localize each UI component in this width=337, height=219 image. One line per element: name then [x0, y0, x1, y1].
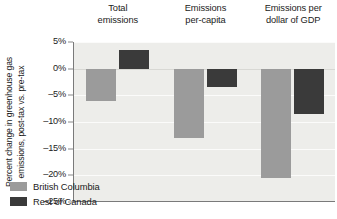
y-tick-label-3: –10%: [22, 117, 66, 126]
category-header-total-emissions: Total emissions: [74, 1, 162, 37]
category-header-line2: emissions: [74, 15, 162, 27]
plot-area: [73, 42, 335, 202]
category-header-emissions-per-dollar-gdp: Emissions per dollar of GDP: [249, 1, 337, 37]
legend-label-rest-of-canada: Rest of Canada: [33, 197, 97, 207]
legend-item-british-columbia: British Columbia: [10, 179, 100, 194]
bar-0-group-2: [261, 69, 291, 178]
y-axis-title-line1: Percent change in greenhouse gas: [4, 57, 14, 187]
category-header-emissions-per-capita: Emissions per-capita: [162, 1, 250, 37]
bar-0-group-0: [86, 69, 116, 101]
category-header-line1: Emissions per: [249, 3, 337, 15]
bar-1-group-2: [294, 69, 324, 114]
legend-swatch-british-columbia: [10, 182, 27, 191]
y-tick-label-4: –15%: [22, 144, 66, 153]
gridline: [74, 42, 335, 43]
bar-1-group-1: [207, 69, 237, 88]
gridline: [74, 175, 335, 176]
chart-figure: Percent change in greenhouse gas emissio…: [0, 0, 337, 219]
category-headers: Total emissions Emissions per-capita Emi…: [74, 1, 337, 37]
legend-label-british-columbia: British Columbia: [33, 182, 100, 192]
category-header-line2: per-capita: [162, 15, 250, 27]
figure-caption: [5, 210, 335, 219]
gridline: [74, 149, 335, 150]
bar-0-group-1: [174, 69, 204, 138]
legend-item-rest-of-canada: Rest of Canada: [10, 194, 100, 209]
y-tick-label-0: 5%: [22, 37, 66, 46]
category-header-line1: Emissions: [162, 3, 250, 15]
y-tick-label-2: –5%: [22, 91, 66, 100]
category-header-line1: Total: [74, 3, 162, 15]
bar-1-group-0: [119, 50, 149, 69]
gridline: [74, 122, 335, 123]
chart-legend: British Columbia Rest of Canada: [10, 179, 100, 209]
legend-swatch-rest-of-canada: [10, 197, 27, 206]
category-header-line2: dollar of GDP: [249, 15, 337, 27]
y-tick-label-1: 0%: [22, 64, 66, 73]
